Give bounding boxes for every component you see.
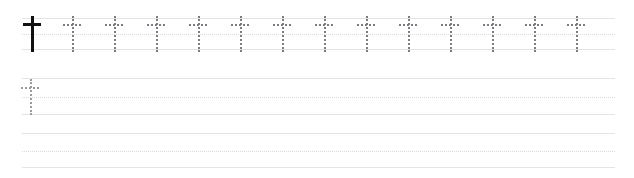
dagger-crossbar: [441, 24, 459, 26]
dagger-crossbar: [567, 24, 585, 26]
baseline-rule-line: [22, 167, 615, 168]
dagger-crossbar: [399, 24, 417, 26]
dagger-stem: [450, 16, 452, 52]
dagger-stem: [576, 16, 578, 52]
dagger-stem: [198, 16, 200, 52]
dotted-midline: [22, 34, 615, 35]
dagger-crossbar: [315, 24, 333, 26]
baseline-rule-line: [22, 49, 615, 50]
top-rule-line: [22, 18, 615, 19]
dagger-crossbar: [483, 24, 501, 26]
dagger-crossbar: [105, 24, 123, 26]
dagger-stem: [408, 16, 410, 52]
dagger-crossbar: [147, 24, 165, 26]
dagger-crossbar: [21, 87, 39, 89]
dagger-stem: [240, 16, 242, 52]
dagger-crossbar: [63, 24, 81, 26]
dagger-stem: [324, 16, 326, 52]
dotted-midline: [22, 151, 615, 152]
top-rule-line: [22, 78, 615, 79]
dagger-stem: [72, 16, 74, 52]
dagger-stem: [156, 16, 158, 52]
dagger-stem: [30, 79, 32, 115]
dagger-stem: [114, 16, 116, 52]
dagger-stem: [534, 16, 536, 52]
practice-row-3[interactable]: [22, 133, 615, 168]
dagger-crossbar: [273, 24, 291, 26]
dagger-stem: [366, 16, 368, 52]
dagger-crossbar: [231, 24, 249, 26]
dagger-stem: [282, 16, 284, 52]
handwriting-worksheet: [0, 0, 634, 178]
dagger-stem: [492, 16, 494, 52]
baseline-rule-line: [22, 114, 615, 115]
practice-row-1[interactable]: [22, 18, 615, 50]
dagger-crossbar: [357, 24, 375, 26]
dagger-stem: [31, 16, 34, 52]
practice-row-2[interactable]: [22, 78, 615, 115]
top-rule-line: [22, 133, 615, 134]
dagger-crossbar: [189, 24, 207, 26]
dagger-crossbar: [23, 23, 41, 26]
dotted-midline: [22, 97, 615, 98]
dagger-crossbar: [525, 24, 543, 26]
